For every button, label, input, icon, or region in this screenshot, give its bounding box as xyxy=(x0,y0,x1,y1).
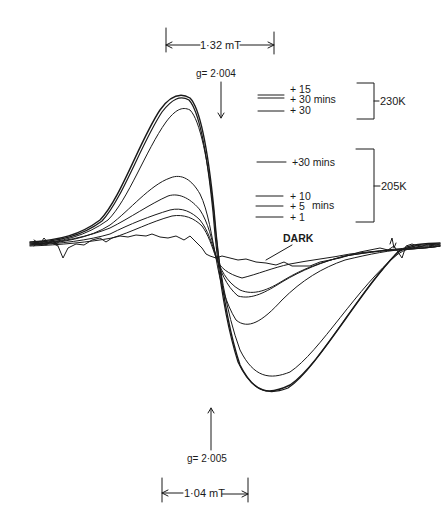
temperature-205k-label: 205K xyxy=(381,180,407,192)
dark-pointer-line xyxy=(266,245,292,260)
legend-205k-entry-1: +30 mins xyxy=(292,156,335,168)
top-scale-label: 1·32 mT xyxy=(200,39,241,51)
spectra-curves xyxy=(30,95,440,391)
legend-205k-entry-4: + 1 xyxy=(290,211,305,223)
legend-230k-entry-3: + 30 xyxy=(290,104,311,116)
bottom-scale-label: 1·04 mT xyxy=(184,487,225,499)
legend-205k-mins: mins xyxy=(312,199,334,211)
bottom-g-value: g= 2·005 xyxy=(187,453,227,465)
top-g-arrow xyxy=(218,82,224,118)
temperature-230k-label: 230K xyxy=(380,95,406,107)
bottom-g-arrow xyxy=(208,408,214,450)
top-g-value: g= 2·004 xyxy=(196,68,236,80)
dark-label: DARK xyxy=(283,232,313,244)
